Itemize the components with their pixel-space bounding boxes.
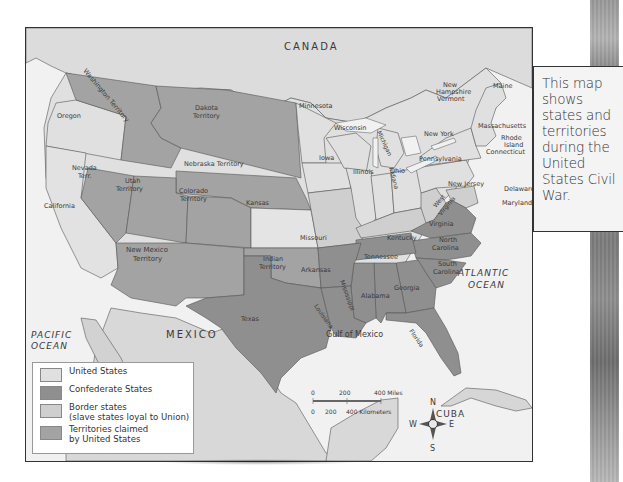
scale-miles-200: 200 [339, 389, 351, 396]
label-south-carolina-1: South [438, 260, 457, 268]
legend-label: United States [69, 367, 127, 377]
label-maryland: Maryland [502, 199, 532, 207]
label-vermont: Vermont [437, 95, 465, 103]
lake-michigan [373, 138, 378, 168]
label-missouri: Missouri [300, 234, 327, 242]
civil-war-map: CANADA MEXICO CUBA PACIFIC OCEAN ATLANTI… [25, 27, 533, 462]
scale-miles-0: 0 [311, 389, 315, 396]
label-nebraska: Nebraska Territory [184, 160, 244, 168]
state-kansas [251, 208, 318, 248]
label-indian-2: Territory [258, 263, 286, 271]
legend-sublabel: (slave states loyal to Union) [69, 412, 189, 422]
label-colorado-2: Territory [179, 195, 207, 203]
label-pacific-1: PACIFIC [31, 330, 72, 340]
caption-line: shows [542, 91, 623, 107]
label-mexico: MEXICO [166, 329, 218, 340]
label-wisconsin: Wisconsin [334, 124, 366, 132]
label-cuba: CUBA [436, 409, 465, 419]
label-pennsylvania: Pennsylvania [419, 155, 462, 163]
legend-label: Territories claimed [69, 424, 148, 434]
caption-line: states and [542, 107, 623, 123]
map-caption: This map shows states and territories du… [533, 66, 623, 232]
label-iowa: Iowa [319, 154, 334, 162]
legend-item-border-states: Border states(slave states loyal to Unio… [40, 403, 193, 422]
map-legend: United States Confederate States Border … [32, 362, 194, 454]
label-texas: Texas [240, 315, 260, 323]
legend-sublabel: by United States [69, 434, 140, 444]
compass-e: E [449, 420, 454, 429]
label-virginia: Virginia [429, 220, 454, 228]
label-atlantic-2: OCEAN [468, 280, 505, 290]
label-north-carolina-1: North [439, 236, 457, 244]
label-indian-1: Indian [263, 255, 283, 263]
label-oregon: Oregon [57, 112, 81, 120]
label-nevada-2: Terr. [77, 172, 92, 180]
legend-item-territories: Territories claimedby United States [40, 425, 193, 444]
label-utah-1: Utah [125, 177, 140, 185]
label-alabama: Alabama [361, 292, 390, 300]
label-utah-2: Territory [115, 185, 143, 193]
label-nevada-1: Nevada [72, 164, 97, 172]
label-ohio: Ohio [390, 167, 405, 175]
swatch-territories [40, 426, 62, 440]
compass-n: N [430, 398, 436, 407]
legend-label: Border states [69, 402, 127, 412]
scale-km-0: 0 [311, 408, 315, 415]
label-georgia: Georgia [394, 284, 420, 292]
label-massachusetts: Massachusetts [478, 122, 527, 130]
legend-label: Confederate States [69, 385, 152, 395]
label-minnesota: Minnesota [299, 102, 333, 110]
scale-km-200: 200 [325, 408, 337, 415]
label-new-mexico-1: New Mexico [126, 246, 168, 254]
caption-line: States Civil [542, 171, 623, 187]
label-delaware: Delaware [504, 185, 532, 193]
caption-line: This map [542, 75, 623, 91]
legend-item-confederate: Confederate States [40, 385, 193, 400]
swatch-confederate [40, 386, 62, 400]
swatch-border-states [40, 404, 62, 418]
caption-line: territories [542, 123, 623, 139]
compass-s: S [430, 444, 435, 453]
scale-km-400: 400 Kilometers [346, 408, 391, 415]
compass-w: W [409, 420, 417, 429]
label-new-york: New York [424, 130, 454, 138]
label-new-jersey: New Jersey [448, 180, 484, 188]
label-illinois: Illinois [353, 168, 374, 176]
label-kansas: Kansas [246, 199, 270, 207]
label-kentucky: Kentucky [387, 234, 417, 242]
label-canada: CANADA [284, 41, 339, 52]
label-tennessee: Tennessee [363, 253, 398, 261]
territory-colorado [186, 196, 251, 248]
label-maine: Maine [493, 82, 513, 90]
label-arkansas: Arkansas [301, 266, 331, 274]
swatch-united-states [40, 368, 62, 382]
caption-line: War. [542, 187, 623, 203]
label-dakota-1: Dakota [195, 104, 218, 112]
label-dakota-2: Territory [192, 112, 220, 120]
scale-miles-400: 400 Miles [374, 389, 403, 396]
label-gulf: Gulf of Mexico [326, 330, 383, 339]
caption-line: during the [542, 139, 623, 155]
label-colorado-1: Colorado [179, 187, 208, 195]
label-pacific-2: OCEAN [31, 341, 68, 351]
label-atlantic-1: ATLANTIC [457, 268, 509, 278]
label-california: California [44, 202, 75, 210]
legend-item-united-states: United States [40, 367, 193, 382]
caption-line: United [542, 155, 623, 171]
label-new-mexico-2: Territory [132, 255, 162, 263]
label-north-carolina-2: Carolina [432, 244, 459, 252]
page-shadow [160, 459, 360, 465]
label-connecticut: Connecticut [486, 148, 525, 156]
label-south-carolina-2: Carolina [433, 268, 460, 276]
